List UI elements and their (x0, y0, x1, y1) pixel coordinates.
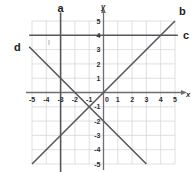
x-tick-label-2: 2 (130, 96, 134, 103)
x-tick-label-5: 5 (173, 96, 177, 103)
x-tick-label-1: 1 (116, 96, 120, 103)
y-tick-label-neg3: -3 (94, 132, 100, 139)
x-tick-label-4: 4 (159, 96, 163, 103)
y-tick-label-2: 2 (97, 61, 101, 68)
y-tick-label-neg4: -4 (94, 146, 100, 153)
line-label-a: a (58, 2, 65, 14)
line-label-c: c (183, 29, 189, 41)
y-tick-label-1: 1 (97, 75, 101, 82)
y-tick-label-neg5: -5 (94, 161, 100, 168)
y-tick-label-neg2: -2 (94, 118, 100, 125)
y-tick-label-neg1: -1 (94, 103, 100, 110)
x-tick-label-neg3: -3 (57, 96, 63, 103)
y-tick-label-3: 3 (97, 46, 101, 53)
line-label-b: b (179, 5, 186, 17)
y-tick-label-5: 5 (97, 18, 101, 25)
x-tick-label-0: 0 (105, 96, 109, 103)
y-axis-label: y (100, 2, 106, 11)
x-tick-label-neg4: -4 (43, 96, 49, 103)
graph-canvas: -5-4-3-2-1012345 54321-1-2-3-4-5 x y abc… (0, 0, 194, 172)
y-tick-label-4: 4 (97, 32, 101, 39)
x-axis-label: x (185, 90, 191, 99)
x-tick-label-neg1: -1 (86, 96, 92, 103)
x-tick-label-3: 3 (144, 96, 148, 103)
coordinate-graph: -5-4-3-2-1012345 54321-1-2-3-4-5 x y abc… (0, 0, 194, 172)
line-label-d: d (14, 41, 21, 53)
x-tick-label-neg5: -5 (29, 96, 35, 103)
x-tick-label-neg2: -2 (72, 96, 78, 103)
